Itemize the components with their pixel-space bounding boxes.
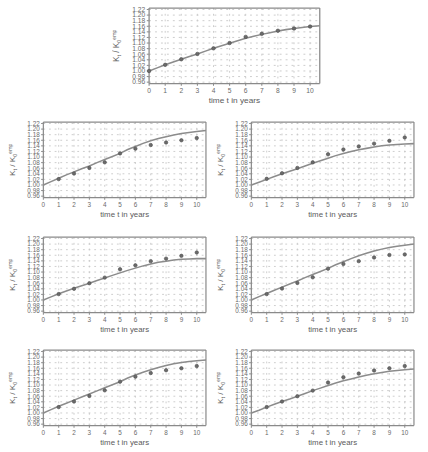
svg-text:9: 9 [388, 316, 392, 323]
svg-text:time t in years: time t in years [308, 438, 357, 447]
svg-text:4: 4 [103, 201, 107, 208]
svg-text:5: 5 [326, 201, 330, 208]
svg-text:Kt / K0emp: Kt / K0emp [8, 372, 18, 404]
svg-text:10: 10 [401, 316, 409, 323]
svg-text:6: 6 [342, 316, 346, 323]
svg-text:0.96: 0.96 [27, 420, 40, 427]
svg-text:time t in years: time t in years [100, 325, 149, 334]
svg-text:1: 1 [265, 429, 269, 436]
svg-text:Kt / K0emp: Kt / K0emp [112, 30, 122, 62]
svg-text:0: 0 [42, 201, 46, 208]
svg-text:5: 5 [326, 429, 330, 436]
svg-text:0.96: 0.96 [235, 192, 248, 199]
chart-panel: 1.221.201.181.161.141.121.101.081.061.04… [216, 344, 418, 450]
svg-text:2: 2 [72, 316, 76, 323]
chart-panel: 1.221.201.181.161.141.121.101.081.061.04… [8, 116, 210, 222]
svg-text:7: 7 [149, 316, 153, 323]
svg-text:10: 10 [193, 201, 201, 208]
svg-text:time t in years: time t in years [209, 96, 260, 105]
svg-text:9: 9 [180, 429, 184, 436]
svg-text:10: 10 [193, 429, 201, 436]
svg-text:5: 5 [118, 316, 122, 323]
svg-text:1: 1 [163, 87, 167, 94]
chart-panel: 1.221.201.181.161.141.121.101.081.061.04… [216, 116, 418, 222]
svg-text:1: 1 [265, 316, 269, 323]
svg-text:0: 0 [42, 429, 46, 436]
svg-text:Kt / K0emp: Kt / K0emp [8, 144, 18, 176]
svg-text:0.96: 0.96 [27, 192, 40, 199]
svg-text:5: 5 [326, 316, 330, 323]
svg-text:3: 3 [296, 316, 300, 323]
svg-text:7: 7 [357, 316, 361, 323]
svg-text:time t in years: time t in years [308, 210, 357, 219]
svg-text:9: 9 [388, 201, 392, 208]
svg-text:6: 6 [134, 429, 138, 436]
svg-text:7: 7 [357, 429, 361, 436]
svg-text:time t in years: time t in years [100, 438, 149, 447]
svg-text:3: 3 [296, 201, 300, 208]
chart-panel: 1.221.201.181.161.141.121.101.081.061.04… [8, 344, 210, 450]
svg-text:1: 1 [57, 316, 61, 323]
svg-text:6: 6 [342, 201, 346, 208]
svg-text:9: 9 [388, 429, 392, 436]
chart-panel: 1.221.201.181.161.141.121.101.081.061.04… [216, 231, 418, 337]
svg-text:1: 1 [57, 429, 61, 436]
svg-text:4: 4 [103, 316, 107, 323]
svg-text:3: 3 [196, 87, 200, 94]
svg-text:2: 2 [72, 201, 76, 208]
svg-text:3: 3 [88, 316, 92, 323]
chart-panel: 1.221.201.181.161.141.121.101.081.061.04… [8, 231, 210, 337]
svg-text:5: 5 [118, 201, 122, 208]
svg-text:6: 6 [134, 316, 138, 323]
svg-text:10: 10 [306, 87, 314, 94]
svg-text:time t in years: time t in years [308, 325, 357, 334]
svg-text:0: 0 [250, 429, 254, 436]
svg-text:8: 8 [372, 429, 376, 436]
svg-text:2: 2 [280, 201, 284, 208]
svg-text:9: 9 [292, 87, 296, 94]
svg-text:9: 9 [180, 201, 184, 208]
svg-text:8: 8 [372, 316, 376, 323]
svg-text:5: 5 [228, 87, 232, 94]
svg-text:3: 3 [296, 429, 300, 436]
svg-text:4: 4 [212, 87, 216, 94]
svg-text:2: 2 [72, 429, 76, 436]
svg-text:0.96: 0.96 [235, 420, 248, 427]
svg-text:0: 0 [147, 87, 151, 94]
svg-text:8: 8 [276, 87, 280, 94]
svg-text:10: 10 [193, 316, 201, 323]
svg-text:8: 8 [372, 201, 376, 208]
svg-text:4: 4 [311, 201, 315, 208]
svg-text:2: 2 [280, 429, 284, 436]
svg-text:7: 7 [149, 201, 153, 208]
svg-text:9: 9 [180, 316, 184, 323]
svg-text:Kt / K0emp: Kt / K0emp [8, 259, 18, 291]
svg-text:10: 10 [401, 201, 409, 208]
svg-text:3: 3 [88, 429, 92, 436]
svg-text:6: 6 [342, 429, 346, 436]
svg-text:4: 4 [103, 429, 107, 436]
svg-text:0.96: 0.96 [132, 79, 145, 86]
svg-text:6: 6 [244, 87, 248, 94]
svg-text:0: 0 [250, 201, 254, 208]
svg-text:7: 7 [260, 87, 264, 94]
svg-text:Kt / K0emp: Kt / K0emp [216, 144, 226, 176]
svg-text:4: 4 [311, 316, 315, 323]
svg-text:7: 7 [149, 429, 153, 436]
svg-text:0.96: 0.96 [27, 307, 40, 314]
svg-text:8: 8 [164, 316, 168, 323]
svg-text:1: 1 [265, 201, 269, 208]
svg-text:0: 0 [42, 316, 46, 323]
svg-text:2: 2 [179, 87, 183, 94]
svg-text:1: 1 [57, 201, 61, 208]
svg-text:time t in years: time t in years [100, 210, 149, 219]
svg-text:4: 4 [311, 429, 315, 436]
svg-text:8: 8 [164, 429, 168, 436]
svg-text:0.96: 0.96 [235, 307, 248, 314]
svg-text:7: 7 [357, 201, 361, 208]
svg-text:Kt / K0emp: Kt / K0emp [216, 372, 226, 404]
svg-text:10: 10 [401, 429, 409, 436]
svg-text:3: 3 [88, 201, 92, 208]
svg-text:Kt / K0emp: Kt / K0emp [216, 259, 226, 291]
chart-panel: 1.221.201.181.161.141.121.101.081.061.04… [112, 2, 324, 108]
